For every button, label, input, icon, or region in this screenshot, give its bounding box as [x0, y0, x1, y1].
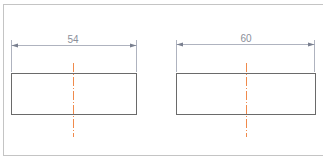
left-drawing: 54 — [12, 34, 137, 137]
right-arrow-end-icon — [308, 43, 315, 47]
frame-border — [4, 5, 323, 156]
right-arrow-start-icon — [177, 43, 184, 47]
left-arrow-start-icon — [12, 44, 19, 48]
right-dimension-label: 60 — [240, 33, 252, 44]
drawing-canvas: 54 60 — [0, 0, 323, 162]
left-arrow-end-icon — [130, 44, 137, 48]
right-drawing: 60 — [177, 33, 316, 137]
left-dimension-label: 54 — [67, 34, 79, 45]
